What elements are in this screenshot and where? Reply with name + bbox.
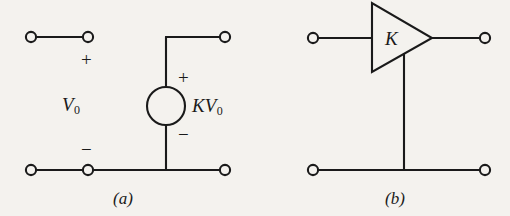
input-polarity-minus-label: −	[81, 140, 92, 159]
dependent-source-gain-symbol: KV	[192, 95, 216, 116]
voltage-amplifier-triangle	[372, 3, 432, 72]
terminal-b-output-bottom-right	[480, 165, 490, 175]
input-voltage-symbol: V	[62, 94, 74, 115]
input-voltage-subscript: 0	[74, 103, 80, 117]
input-polarity-plus-label: +	[81, 50, 92, 69]
dependent-source-subscript: 0	[217, 104, 223, 118]
caption-a-text: (a)	[113, 189, 133, 208]
terminal-b-input-bottom-left	[308, 165, 318, 175]
terminal-a-input-top-left	[26, 32, 36, 42]
caption-b-text: (b)	[385, 189, 405, 208]
terminal-a-output-bottom-right	[220, 165, 230, 175]
terminal-a-input-top-right	[83, 32, 93, 42]
amplifier-gain-label: K	[385, 29, 398, 48]
caption-b: (b)	[385, 190, 405, 207]
terminal-a-input-bottom-right	[83, 165, 93, 175]
terminal-a-output-top-right	[220, 32, 230, 42]
dependent-source-value-label: KV0	[192, 96, 222, 115]
source-polarity-minus-label: −	[178, 125, 189, 144]
terminal-b-input-top-left	[308, 33, 318, 43]
terminal-b-output-top-right	[480, 33, 490, 43]
source-polarity-plus-label: +	[178, 68, 189, 87]
dependent-voltage-source-symbol	[147, 87, 185, 125]
input-voltage-label: V0	[62, 95, 80, 114]
caption-a: (a)	[113, 190, 133, 207]
figure-canvas: + − V0 + − KV0 (a) K (b)	[0, 0, 510, 216]
terminal-a-input-bottom-left	[26, 165, 36, 175]
